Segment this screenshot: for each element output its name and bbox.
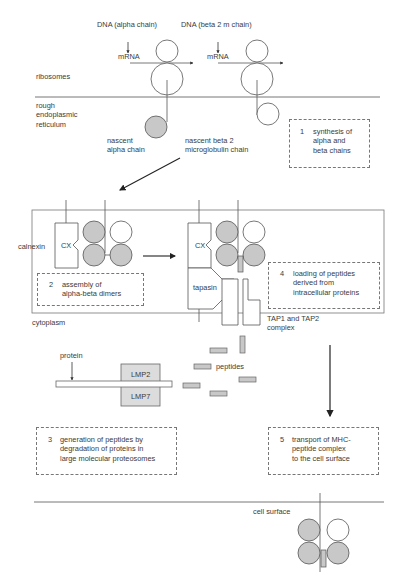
lmp2-label: LMP2 <box>131 370 150 379</box>
cytoplasm-label: cytoplasm <box>32 318 65 327</box>
step-3-box: 3 generation of peptides by degradation … <box>36 427 177 475</box>
protein-strand <box>56 381 172 387</box>
step-3-number: 3 <box>48 435 52 444</box>
step-5-number: 5 <box>280 435 284 444</box>
cx-label-2: CX <box>195 241 205 250</box>
cell-surface-label: cell surface <box>253 507 290 516</box>
step-4-text: loading of peptides derived from intrace… <box>293 269 359 297</box>
dna-beta-label: DNA (beta 2 m chain) <box>181 20 252 29</box>
assembly-arrow <box>120 158 180 190</box>
protein-label: protein <box>60 351 83 360</box>
tap-complex-label: TAP1 and TAP2 complex <box>267 314 319 333</box>
step-1-number: 1 <box>300 127 304 136</box>
calnexin-label: calnexin <box>18 242 45 251</box>
ribosome-alpha <box>151 40 183 122</box>
surface-mhc-complex <box>298 493 349 572</box>
step-2-box: 2 assembly of alpha-beta dimers <box>37 273 144 306</box>
nascent-alpha-label: nascent alpha chain <box>107 136 145 155</box>
mrna-label-2: mRNA <box>207 52 229 61</box>
step-2-number: 2 <box>49 280 53 289</box>
step-4-number: 4 <box>280 269 284 278</box>
dna-alpha-label: DNA (alpha chain) <box>97 20 157 29</box>
step-5-box: 5 transport of MHC- peptide complex to t… <box>268 427 379 475</box>
nascent-beta-label: nascent beta 2 microglobulin chain <box>185 136 248 155</box>
nascent-beta-chain <box>257 103 279 125</box>
cx-label-1: CX <box>61 241 71 250</box>
ribosomes-label: ribosomes <box>36 72 70 81</box>
step-4-box: 4 loading of peptides derived from intra… <box>268 262 380 309</box>
step-5-text: transport of MHC- peptide complex to the… <box>292 435 351 463</box>
step-1-box: 1 synthesis of alpha and beta chains <box>289 119 370 168</box>
lmp7-label: LMP7 <box>131 392 150 401</box>
step-1-text: synthesis of alpha and beta chains <box>313 127 352 155</box>
mrna-label-1: mRNA <box>118 52 140 61</box>
peptide-loading-complex <box>188 200 265 325</box>
nascent-alpha-chain <box>145 116 167 138</box>
peptides-label: peptides <box>216 362 244 371</box>
step-2-text: assembly of alpha-beta dimers <box>62 280 121 299</box>
step-3-text: generation of peptides by degradation of… <box>60 435 155 463</box>
tapasin-label: tapasin <box>193 283 217 292</box>
rer-label: rough endoplasmic reticulum <box>36 101 78 129</box>
